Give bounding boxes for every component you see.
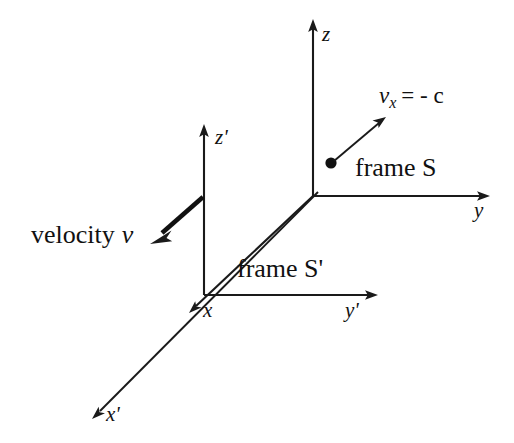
vx-variable: v — [379, 83, 389, 108]
vx-expression: = - c — [401, 83, 443, 108]
velocity-variable: v — [122, 220, 134, 249]
frame-s-prime-label: frame S' — [237, 256, 323, 282]
x-axis-line — [196, 196, 313, 306]
y-axis-label: y — [474, 200, 483, 221]
x-axis-label: x — [203, 300, 212, 321]
frame-velocity-arrow-line — [162, 197, 203, 233]
z-axis-label: z — [322, 24, 330, 45]
frame-s-prime-axes — [92, 124, 378, 419]
particle-velocity-label: vx= - c — [379, 84, 444, 111]
velocity-word: velocity — [31, 220, 115, 249]
z-prime-axis-label: z' — [215, 127, 228, 148]
physics-diagram: z y x z' y' x' frame S frame S' vx= - c … — [0, 0, 514, 443]
x-prime-axis-label: x' — [106, 404, 120, 425]
frame-s-label: frame S — [355, 155, 437, 181]
frame-velocity-arrow-group — [150, 197, 203, 244]
frame-s-axes — [189, 19, 490, 313]
y-prime-axis-label: y' — [345, 300, 359, 321]
frame-velocity-label: velocityv — [31, 222, 133, 248]
frame-velocity-arrowhead — [150, 231, 172, 245]
vx-subscript: x — [389, 94, 396, 111]
